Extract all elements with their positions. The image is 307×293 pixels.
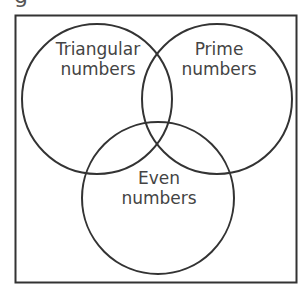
prime-label-line1: Prime [181,39,256,59]
prime-label-line2: numbers [181,59,256,79]
even-label-line2: numbers [121,188,196,208]
triangular-numbers-label: Triangular numbers [56,39,141,79]
triangular-label-line2: numbers [56,59,141,79]
even-numbers-label: Even numbers [121,168,196,208]
triangular-label-line1: Triangular [56,39,141,59]
prime-numbers-label: Prime numbers [181,39,256,79]
even-label-line1: Even [121,168,196,188]
venn-diagram [0,0,307,293]
